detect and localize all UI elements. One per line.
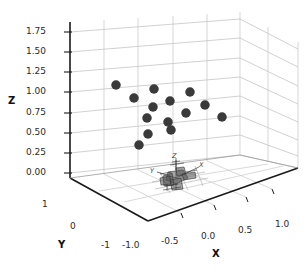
scatter-point (200, 100, 210, 110)
figure-canvas: 1.75 1.50 1.25 1.00 0.75 0.50 0.25 0.00 … (0, 0, 305, 271)
x-tick-label-0-0: 0.0 (201, 231, 215, 241)
scatter-point (148, 102, 158, 112)
scatter-point (142, 113, 152, 123)
scatter-point (129, 93, 139, 103)
x-tick-label-1-0: 1.0 (275, 219, 289, 229)
x-axis-title: X (212, 248, 220, 259)
z-tick-label-1-00: 1.00 (26, 86, 46, 96)
z-tick-label-1-75: 1.75 (26, 26, 46, 36)
scatter-point (134, 140, 144, 150)
scatter-point (165, 96, 175, 106)
scatter-point (166, 125, 176, 135)
pane-right (240, 12, 298, 168)
z-axis-title: Z (8, 95, 15, 106)
x-tick-label-0-5: 0.5 (238, 225, 252, 235)
z-tick-label-0-75: 0.75 (26, 107, 46, 117)
z-tick-label-0-25: 0.25 (26, 147, 46, 157)
y-tick-label-0: 0 (70, 221, 76, 231)
scatter-point (181, 108, 191, 118)
z-tick-label-1-50: 1.50 (26, 46, 46, 56)
mini-axis-label-z: Z (172, 152, 176, 160)
mini-axis-label-y: Y (150, 167, 154, 175)
scatter-point (185, 87, 195, 97)
scatter-point (149, 84, 159, 94)
pane-back (70, 12, 240, 178)
x-tick-label-neg0-5: -0.5 (161, 236, 179, 246)
z-tick-label-0-50: 0.50 (26, 127, 46, 137)
z-tick-label-1-25: 1.25 (26, 66, 46, 76)
scatter-point (217, 112, 227, 122)
y-tick-label-1: 1 (42, 199, 48, 209)
x-tick-label-neg1-0: -1.0 (122, 240, 140, 250)
scatter-point (111, 80, 121, 90)
mini-axis-label-x: X (199, 161, 203, 169)
y-axis-title: Y (58, 239, 65, 250)
z-tick-label-0-00: 0.00 (26, 167, 46, 177)
y-tick-label-neg1: -1 (101, 240, 110, 250)
scatter-point (143, 129, 153, 139)
